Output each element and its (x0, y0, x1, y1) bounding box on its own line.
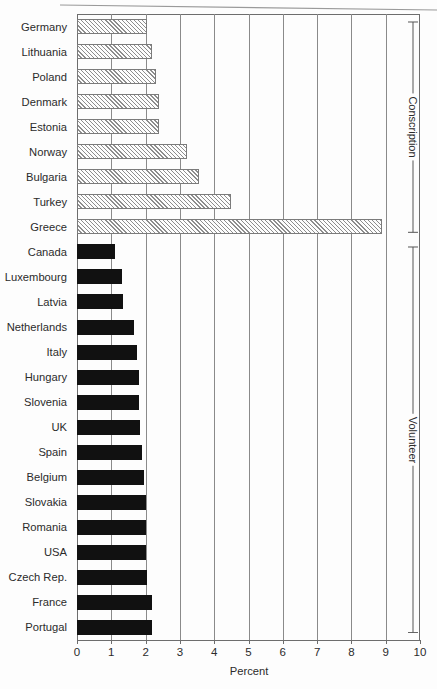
category-label: Spain (0, 446, 67, 458)
gridline (386, 14, 387, 640)
bar (77, 69, 156, 84)
x-tick-mark (111, 640, 112, 644)
gridline (214, 14, 215, 640)
x-tick-label: 10 (405, 646, 435, 658)
bar (77, 44, 152, 59)
bar (77, 620, 152, 635)
gridline (180, 14, 181, 640)
plot-area (77, 14, 420, 640)
bar (77, 370, 139, 385)
x-axis-title: Percent (77, 665, 421, 677)
category-label: Lithuania (0, 46, 67, 58)
gridline (249, 14, 250, 640)
bar (77, 320, 134, 335)
x-tick-label: 3 (165, 646, 195, 658)
category-label: Italy (0, 346, 67, 358)
x-tick-mark (283, 640, 284, 644)
category-label: Poland (0, 71, 67, 83)
bar (77, 445, 142, 460)
bar (77, 194, 231, 209)
category-label: Norway (0, 146, 67, 158)
category-label: Hungary (0, 371, 67, 383)
x-tick-label: 1 (96, 646, 126, 658)
category-label: France (0, 596, 67, 608)
category-label: Canada (0, 246, 67, 258)
bar (77, 345, 137, 360)
bar (77, 219, 382, 234)
x-tick-label: 2 (131, 646, 161, 658)
bar (77, 520, 146, 535)
group-annotation-conscription: Conscription (398, 21, 428, 233)
category-label: Bulgaria (0, 171, 67, 183)
x-tick-mark (386, 640, 387, 644)
gridline (283, 14, 284, 640)
bar (77, 595, 152, 610)
bar (77, 570, 147, 585)
x-tick-mark (420, 640, 421, 644)
x-tick-mark (77, 640, 78, 644)
category-label: UK (0, 421, 67, 433)
category-label: Belgium (0, 471, 67, 483)
category-axis-labels: GermanyLithuaniaPolandDenmarkEstoniaNorw… (0, 14, 72, 640)
group-annotation-label: Conscription (407, 93, 419, 160)
gridline (317, 14, 318, 640)
category-label: USA (0, 546, 67, 558)
x-tick-mark (351, 640, 352, 644)
bar (77, 269, 122, 284)
category-label: Czech Rep. (0, 571, 67, 583)
bar (77, 144, 187, 159)
category-label: Slovakia (0, 496, 67, 508)
x-tick-label: 0 (62, 646, 92, 658)
x-tick-label: 7 (302, 646, 332, 658)
bar (77, 119, 159, 134)
category-label: Denmark (0, 96, 67, 108)
category-label: Romania (0, 521, 67, 533)
x-tick-mark (249, 640, 250, 644)
bar (77, 420, 140, 435)
x-tick-label: 5 (234, 646, 264, 658)
category-label: Latvia (0, 296, 67, 308)
category-label: Netherlands (0, 321, 67, 333)
category-label: Luxembourg (0, 271, 67, 283)
bar (77, 495, 146, 510)
bar (77, 395, 139, 410)
x-tick-label: 8 (336, 646, 366, 658)
bar (77, 169, 199, 184)
x-tick-mark (317, 640, 318, 644)
x-tick-label: 4 (199, 646, 229, 658)
scan-artifact-line (60, 4, 437, 11)
bar (77, 94, 159, 109)
group-annotation-volunteer: Volunteer (398, 246, 428, 634)
bar (77, 470, 144, 485)
bar (77, 294, 123, 309)
x-tick-label: 6 (268, 646, 298, 658)
bar-chart: GermanyLithuaniaPolandDenmarkEstoniaNorw… (0, 0, 437, 689)
gridline (351, 14, 352, 640)
category-label: Portugal (0, 621, 67, 633)
bar (77, 244, 115, 259)
category-label: Germany (0, 21, 67, 33)
x-tick-mark (146, 640, 147, 644)
category-label: Greece (0, 221, 67, 233)
category-label: Turkey (0, 196, 67, 208)
bar (77, 19, 147, 34)
bar (77, 545, 146, 560)
group-annotation-label: Volunteer (407, 413, 419, 465)
x-tick-mark (214, 640, 215, 644)
category-label: Slovenia (0, 396, 67, 408)
x-tick-label: 9 (371, 646, 401, 658)
category-label: Estonia (0, 121, 67, 133)
x-tick-mark (180, 640, 181, 644)
